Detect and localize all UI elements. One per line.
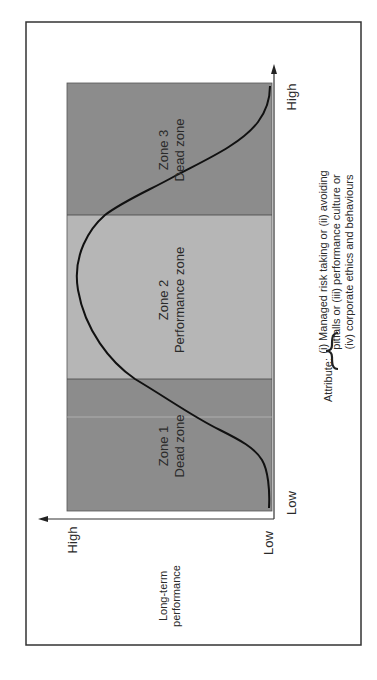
attribute-line-2: pitfalls or (iii) performance culture or xyxy=(330,174,342,350)
zone-2-subtitle: Performance zone xyxy=(172,247,187,353)
y-axis-title-line1: Long-term xyxy=(157,571,169,621)
x-axis-low-label-wrap: Low xyxy=(284,490,299,514)
attribute-line-1: (i) Managed risk taking or (ii) avoiding xyxy=(317,170,329,353)
attribute-list: (i) Managed risk taking or (ii) avoiding… xyxy=(317,170,355,353)
diagram-canvas: Zone 3 Dead zone Zone 2 Performance zone… xyxy=(0,0,377,680)
y-axis-title-line2: performance xyxy=(170,565,182,627)
zone-1-subtitle: Dead zone xyxy=(172,415,187,478)
x-axis-low-label: Low xyxy=(284,490,299,514)
x-axis-high-label-wrap: High xyxy=(284,84,299,111)
y-axis-high-label: High xyxy=(65,527,80,554)
zone-2-title: Zone 2 xyxy=(156,280,171,320)
attribute-line-3: (iv) corporate ethics and behaviours xyxy=(343,174,355,349)
zone-1-title: Zone 1 xyxy=(156,426,171,466)
x-axis-high-label: High xyxy=(284,84,299,111)
zone-3-subtitle: Dead zone xyxy=(172,119,187,182)
performance-zones-diagram: Zone 3 Dead zone Zone 2 Performance zone… xyxy=(0,0,377,680)
zone-3-title: Zone 3 xyxy=(156,130,171,170)
y-axis-high-label-wrap: High xyxy=(65,527,80,554)
y-axis-low-label-wrap: Low xyxy=(261,530,276,554)
y-axis-low-label: Low xyxy=(261,530,276,554)
y-axis-title: Long-term performance xyxy=(157,565,182,627)
